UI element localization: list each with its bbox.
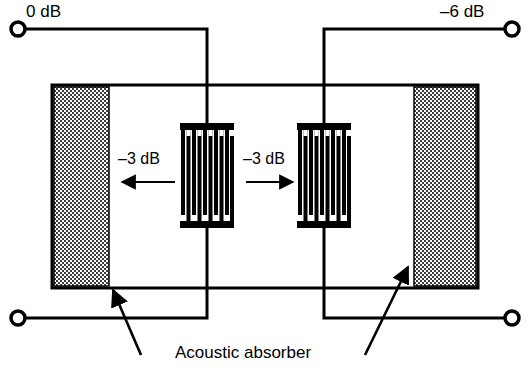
left-propagation-label: –3 dB (118, 151, 160, 167)
left-idt-top-bus (180, 123, 234, 130)
right-absorber (414, 87, 476, 286)
output-top-terminal[interactable] (505, 22, 519, 36)
left-idt (180, 123, 234, 228)
input-top-terminal[interactable] (11, 22, 25, 36)
input-terminal-label: 0 dB (26, 3, 61, 20)
right-idt-top-bus (297, 123, 351, 130)
output-terminal-label: –6 dB (440, 3, 484, 20)
left-idt-bottom-bus (180, 221, 234, 228)
left-absorber-pointer (113, 290, 141, 355)
figure-canvas: 0 dB –6 dB –3 dB –3 dB Acoustic absorber (0, 0, 531, 374)
right-propagation-label: –3 dB (243, 151, 285, 167)
left-absorber (54, 87, 109, 286)
acoustic-absorber-caption: Acoustic absorber (175, 344, 311, 361)
right-idt (297, 123, 351, 228)
right-idt-bottom-bus (297, 221, 351, 228)
input-bottom-terminal[interactable] (11, 311, 25, 325)
output-bottom-terminal[interactable] (505, 311, 519, 325)
saw-delay-line-diagram (0, 0, 531, 374)
